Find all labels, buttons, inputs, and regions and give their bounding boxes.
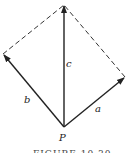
figure-caption: FIGURE 10.30 bbox=[33, 149, 112, 153]
dashed-edge-right bbox=[64, 5, 125, 77]
vector-b-arrow bbox=[4, 55, 64, 127]
dashed-edge-left bbox=[3, 5, 64, 54]
origin-point-label: P bbox=[58, 132, 66, 143]
vector-diagram: c b a P FIGURE 10.30 bbox=[0, 0, 133, 153]
vector-a-label: a bbox=[95, 103, 101, 114]
vector-a-arrow bbox=[64, 78, 124, 127]
vector-b-label: b bbox=[24, 94, 30, 105]
vector-c-label: c bbox=[66, 58, 72, 69]
